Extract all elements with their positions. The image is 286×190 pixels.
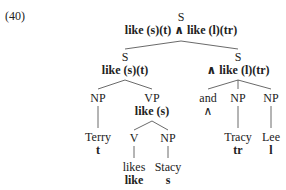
edge-root-left bbox=[125, 41, 181, 49]
np-lee-category: NP bbox=[263, 92, 278, 105]
vp-semantics: like (s) bbox=[135, 105, 169, 118]
np-tracy-category: NP bbox=[230, 92, 245, 105]
edge-lefts-np bbox=[98, 80, 125, 89]
conj-semantics: ∧ bbox=[204, 105, 213, 118]
np-lee-semantics: l bbox=[269, 144, 272, 157]
np-object-category: NP bbox=[160, 132, 175, 145]
np-tracy-semantics: tr bbox=[233, 144, 242, 157]
right-s-semantics: ∧ like (l)(tr) bbox=[206, 64, 269, 77]
v-category: V bbox=[130, 132, 139, 145]
edge-rights-np2 bbox=[238, 80, 271, 89]
left-s-semantics: like (s)(t) bbox=[102, 64, 148, 77]
np-object-semantics: s bbox=[166, 174, 171, 187]
edge-vp-v bbox=[134, 121, 152, 130]
edge-rights-and bbox=[208, 80, 238, 89]
edge-lefts-vp bbox=[125, 80, 152, 89]
np-subject-semantics: t bbox=[96, 144, 100, 157]
edge-root-right bbox=[181, 41, 238, 49]
edge-vp-np bbox=[152, 121, 168, 130]
root-semantics: like (s)(t) ∧ like (l)(tr) bbox=[125, 24, 237, 37]
np-subject-category: NP bbox=[90, 92, 105, 105]
v-semantics: like bbox=[125, 174, 144, 187]
